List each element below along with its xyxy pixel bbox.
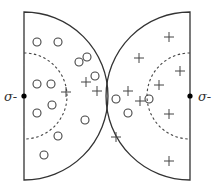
plus-marker — [61, 87, 71, 97]
plus-marker — [81, 77, 91, 87]
circle-marker — [145, 95, 153, 103]
plus-marker — [175, 66, 185, 76]
left-dashed-inner-arc — [24, 53, 67, 139]
plus-marker — [164, 156, 174, 166]
plus-marker — [135, 96, 145, 106]
plus-marker — [134, 53, 144, 63]
circle-marker — [54, 38, 62, 46]
right-center-dot — [187, 93, 192, 98]
circle-marker — [81, 116, 89, 124]
left-markers — [33, 38, 102, 159]
plus-marker — [154, 80, 164, 90]
circle-marker — [33, 80, 41, 88]
right-dashed-inner-arc — [147, 53, 190, 139]
two-half-disk-diagram: σ- σ- — [0, 0, 214, 195]
right-half-disk: σ- — [106, 12, 211, 180]
plus-marker — [123, 86, 133, 96]
circle-marker — [124, 109, 132, 117]
circle-marker — [47, 80, 55, 88]
circle-marker — [33, 109, 41, 117]
circle-marker — [91, 72, 99, 80]
plus-marker — [92, 86, 102, 96]
circle-marker — [48, 101, 56, 109]
circle-marker — [83, 53, 91, 61]
left-center-dot — [21, 93, 26, 98]
plus-marker — [164, 32, 174, 42]
circle-marker — [75, 58, 83, 66]
circle-marker — [33, 38, 41, 46]
left-sigma-label: σ- — [4, 89, 17, 104]
left-half-disk: σ- — [4, 12, 108, 180]
right-sigma-label: σ- — [198, 89, 211, 104]
circle-marker — [40, 151, 48, 159]
circle-marker — [112, 95, 120, 103]
plus-marker — [164, 109, 174, 119]
circle-marker — [54, 132, 62, 140]
